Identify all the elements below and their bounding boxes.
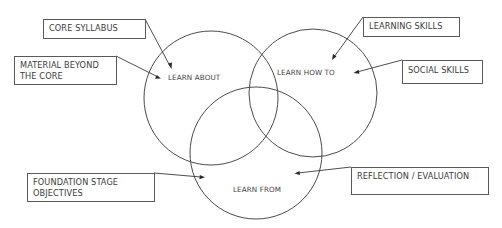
callout-core-syllabus: CORE SYLLABUS <box>43 19 146 39</box>
circle-learn-how-to <box>249 29 377 157</box>
callout-learning-skills: LEARNING SKILLS <box>363 17 460 37</box>
zone-label-learn-about: LEARN ABOUT <box>168 73 220 82</box>
leader-material-beyond-core <box>116 56 161 79</box>
leader-core-syllabus <box>145 19 172 69</box>
zone-label-learn-how-to: LEARN HOW TO <box>277 68 335 77</box>
leader-foundation-stage-objectives <box>154 173 205 179</box>
callout-material-beyond-core: MATERIAL BEYOND THE CORE <box>14 56 117 85</box>
callout-social-skills: SOCIAL SKILLS <box>402 60 483 84</box>
callout-reflection-evaluation: REFLECTION / EVALUATION <box>351 167 489 195</box>
callout-foundation-stage-objectives: FOUNDATION STAGE OBJECTIVES <box>27 173 155 202</box>
circle-learn-about <box>144 31 278 165</box>
circle-learn-from <box>190 87 322 219</box>
leader-social-skills <box>354 60 403 74</box>
leader-learning-skills <box>332 17 363 60</box>
zone-label-learn-from: LEARN FROM <box>233 185 281 194</box>
leader-reflection-evaluation <box>295 167 352 175</box>
